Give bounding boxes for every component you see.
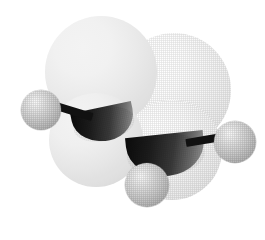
dither-texture — [125, 163, 169, 207]
hydrogen-right — [214, 121, 256, 163]
hydrogen-bottom — [125, 163, 169, 207]
molecular-model-canvas — [0, 0, 265, 240]
dither-texture — [214, 121, 256, 163]
dither-texture — [21, 90, 61, 130]
hydrogen-left — [21, 90, 61, 130]
